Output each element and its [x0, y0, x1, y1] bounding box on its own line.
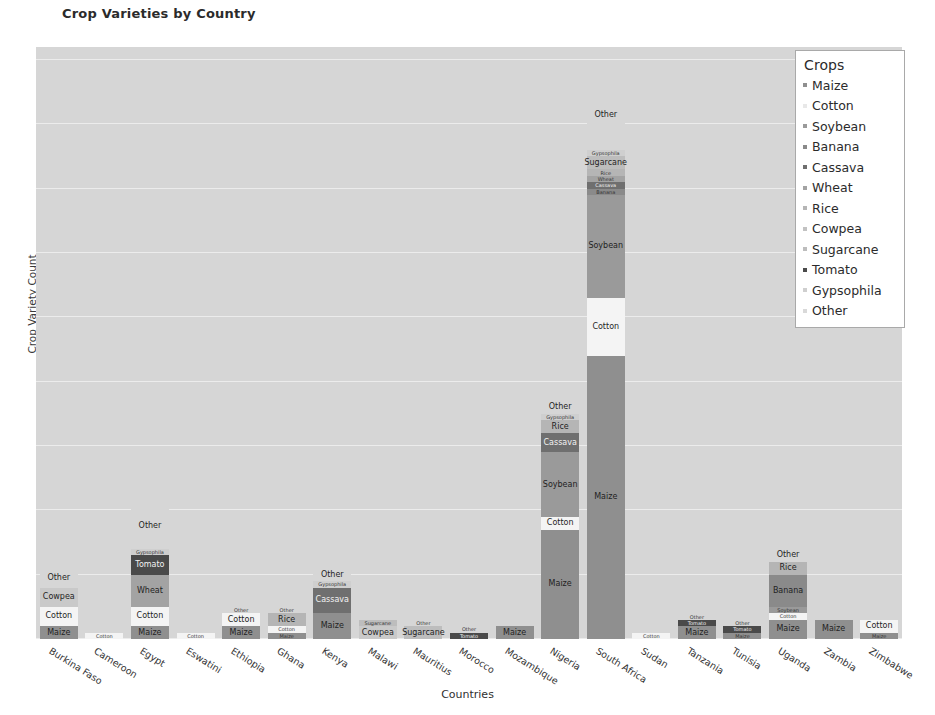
legend-item-soybean[interactable]: Soybean: [803, 116, 897, 137]
segment-label: Tomato: [733, 627, 751, 632]
bar-segment: Other: [222, 607, 260, 613]
gridline: [36, 316, 902, 317]
legend-swatch-icon: [803, 145, 807, 149]
legend-label: Cassava: [812, 160, 864, 175]
bar-segment: Cowpea: [359, 626, 397, 639]
bar-tunisia[interactable]: MaizeTomatoOther: [723, 620, 761, 639]
legend-label: Cotton: [812, 98, 854, 113]
bar-segment: Other: [40, 568, 78, 587]
segment-label: Cotton: [643, 633, 660, 638]
legend-item-maize[interactable]: Maize: [803, 75, 897, 96]
legend-label: Banana: [812, 139, 859, 154]
legend-swatch-icon: [803, 227, 807, 231]
bar-ghana[interactable]: MaizeCottonRiceOther: [268, 607, 306, 639]
bar-segment: Maize: [860, 633, 898, 639]
gridline: [36, 252, 902, 253]
legend[interactable]: Crops MaizeCottonSoybeanBananaCassavaWhe…: [795, 50, 905, 328]
legend-swatch-icon: [803, 104, 807, 108]
bar-uganda[interactable]: MaizeCottonSoybeanBananaRiceOther: [769, 549, 807, 639]
segment-label: Soybean: [543, 481, 578, 489]
x-tick-label: Tunisia: [731, 645, 764, 672]
bar-segment: Gypsophila: [587, 150, 625, 156]
legend-item-cassava[interactable]: Cassava: [803, 157, 897, 178]
bar-south-africa[interactable]: MaizeCottonSoybeanBananaCassavaWheatRice…: [587, 79, 625, 639]
plot-area: MaizeCottonCowpeaOtherCottonMaizeCottonW…: [36, 47, 902, 639]
bar-sudan[interactable]: Cotton: [632, 633, 670, 639]
segment-label: Soybean: [588, 242, 623, 250]
legend-label: Tomato: [812, 262, 858, 277]
bar-segment: Banana: [769, 575, 807, 607]
bar-mozambique[interactable]: Maize: [496, 626, 534, 639]
legend-item-wheat[interactable]: Wheat: [803, 178, 897, 199]
bar-segment: Other: [769, 549, 807, 562]
bar-morocco[interactable]: TomatoOther: [450, 626, 488, 639]
bar-segment: Maize: [40, 626, 78, 639]
gridline: [36, 188, 902, 189]
bar-malawi[interactable]: CowpeaSugarcane: [359, 620, 397, 639]
segment-label: Other: [549, 403, 572, 411]
bar-segment: Cotton: [632, 633, 670, 639]
x-tick-label: Tanzania: [685, 645, 726, 676]
chart-figure: Crop Varieties by Country Crop Variety C…: [0, 0, 935, 715]
legend-swatch-icon: [803, 124, 807, 128]
bar-zimbabwe[interactable]: MaizeCotton: [860, 620, 898, 639]
bar-cameroon[interactable]: Cotton: [85, 633, 123, 639]
legend-label: Wheat: [812, 180, 853, 195]
bar-segment: Tomato: [450, 633, 488, 639]
bar-segment: Gypsophila: [541, 414, 579, 420]
segment-label: Other: [777, 551, 800, 559]
segment-label: Cassava: [316, 596, 349, 604]
segment-label: Cassava: [595, 183, 616, 188]
legend-swatch-icon: [803, 309, 807, 313]
bar-segment: Rice: [541, 420, 579, 433]
x-tick-label: Sudan: [639, 645, 670, 670]
segment-label: Rice: [600, 170, 611, 175]
bar-segment: Maize: [769, 620, 807, 639]
bar-egypt[interactable]: MaizeCottonWheatTomatoGypsophilaOther: [131, 504, 169, 639]
bar-segment: Cassava: [313, 588, 351, 614]
segment-label: Wheat: [137, 587, 163, 595]
bar-segment: Cotton: [541, 517, 579, 530]
gridline: [36, 381, 902, 382]
bar-kenya[interactable]: MaizeCassavaGypsophilaOther: [313, 568, 351, 639]
bar-burkina-faso[interactable]: MaizeCottonCowpeaOther: [40, 568, 78, 639]
bar-segment: Cotton: [222, 613, 260, 626]
legend-item-gypsophila[interactable]: Gypsophila: [803, 280, 897, 301]
bar-eswatini[interactable]: Cotton: [177, 633, 215, 639]
legend-label: Gypsophila: [812, 283, 882, 298]
legend-item-other[interactable]: Other: [803, 301, 897, 322]
bar-zambia[interactable]: Maize: [815, 620, 853, 639]
segment-label: Maize: [279, 633, 293, 638]
segment-label: Other: [280, 608, 294, 613]
segment-label: Rice: [552, 423, 569, 431]
bar-segment: Soybean: [587, 195, 625, 298]
bar-segment: Other: [131, 504, 169, 549]
segment-label: Maize: [230, 629, 253, 637]
bar-segment: Other: [678, 613, 716, 619]
bar-nigeria[interactable]: MaizeCottonSoybeanCassavaRiceGypsophilaO…: [541, 401, 579, 639]
bar-mauritius[interactable]: SugarcaneOther: [404, 620, 442, 639]
bar-segment: Other: [587, 79, 625, 150]
legend-title: Crops: [804, 57, 897, 73]
x-tick-label: Ghana: [275, 645, 307, 671]
legend-item-banana[interactable]: Banana: [803, 137, 897, 158]
legend-item-rice[interactable]: Rice: [803, 198, 897, 219]
bar-segment: Other: [450, 626, 488, 632]
legend-item-sugarcane[interactable]: Sugarcane: [803, 239, 897, 260]
segment-label: Sugarcane: [584, 159, 627, 167]
x-tick-label: Mauritius: [412, 645, 455, 678]
gridline: [36, 123, 902, 124]
bar-segment: Other: [313, 568, 351, 581]
segment-label: Other: [462, 627, 476, 632]
segment-label: Cassava: [543, 439, 576, 447]
legend-item-tomato[interactable]: Tomato: [803, 260, 897, 281]
segment-label: Cotton: [866, 622, 893, 630]
bar-ethiopia[interactable]: MaizeCottonOther: [222, 607, 260, 639]
legend-label: Soybean: [812, 119, 866, 134]
segment-label: Other: [321, 571, 344, 579]
legend-item-cotton[interactable]: Cotton: [803, 96, 897, 117]
legend-item-cowpea[interactable]: Cowpea: [803, 219, 897, 240]
bar-tanzania[interactable]: MaizeTomatoOther: [678, 613, 716, 639]
segment-label: Cotton: [547, 519, 574, 527]
segment-label: Other: [47, 574, 70, 582]
